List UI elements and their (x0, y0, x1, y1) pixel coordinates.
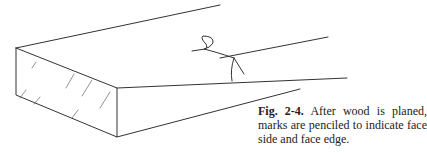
end-grain-hatching (20, 62, 110, 118)
face-edge-pencil-mark-icon (231, 58, 244, 81)
board-end-grain-face (16, 48, 117, 137)
board-far-edge (220, 37, 328, 58)
figure-caption: Fig. 2-4. After wood is planed, marks ar… (258, 104, 427, 146)
figure-label: Fig. 2-4. (258, 104, 304, 118)
board-top-back-edge (16, 5, 220, 48)
face-side-pencil-mark-icon (192, 36, 234, 58)
